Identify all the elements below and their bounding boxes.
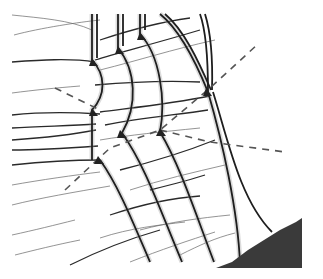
schlieren-canvas xyxy=(0,0,323,279)
schlieren-figure xyxy=(0,0,323,279)
